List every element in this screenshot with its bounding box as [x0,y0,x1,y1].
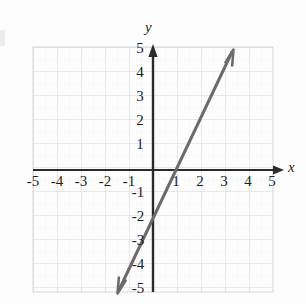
y-axis-label: y [145,20,152,35]
y-tick-label-5: 5 [133,41,147,56]
x-tick-label--5: -5 [23,174,43,189]
x-tick-label-2: 2 [193,174,207,189]
y-tick-label--5: -5 [128,281,148,296]
y-tick-label--4: -4 [128,257,148,272]
y-tick-label-1: 1 [133,137,147,152]
x-axis-label: x [288,160,295,175]
x-tick-label--4: -4 [47,174,67,189]
x-tick-label-5: 5 [265,174,279,189]
coordinate-plane [0,0,306,304]
graph-figure: -5 -4 -3 -2 -1 1 2 3 4 5 5 4 3 2 1 -1 -2… [0,0,306,304]
x-tick-label--3: -3 [71,174,91,189]
x-tick-label--2: -2 [95,174,115,189]
y-tick-label-2: 2 [133,113,147,128]
x-tick-label-4: 4 [241,174,255,189]
y-tick-label-3: 3 [133,89,147,104]
y-tick-label--1: -1 [128,185,148,200]
y-tick-label--3: -3 [128,233,148,248]
x-tick-label-3: 3 [217,174,231,189]
y-tick-label-4: 4 [133,65,147,80]
y-tick-label--2: -2 [128,209,148,224]
x-tick-label-1: 1 [169,174,183,189]
